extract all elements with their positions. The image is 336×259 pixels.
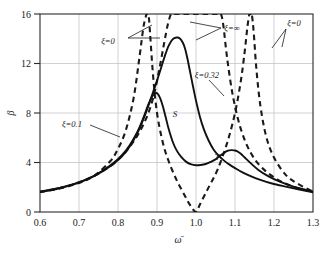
xtick-label-0.6: 0.6	[34, 217, 47, 228]
xtick-label-0.8: 0.8	[112, 217, 125, 228]
ytick-label-8: 8	[26, 108, 31, 119]
xi-point1-label: ξ=0.1	[62, 119, 82, 129]
chart-figure: ξ=0 ξ=∞ ξ=0 ξ=0.32 ξ=0.1 S T 16 12 8 4 0…	[0, 0, 336, 259]
xtick-label-1.3: 1.3	[307, 217, 320, 228]
xi-zero-right-label: ξ=0	[287, 18, 301, 28]
xtick-label-1.0: 1.0	[190, 217, 203, 228]
y-axis-title: β	[5, 110, 16, 116]
ytick-label-12: 12	[21, 58, 31, 69]
ytick-label-0: 0	[26, 207, 31, 218]
point-S-label: S	[173, 109, 178, 119]
ytick-label-16: 16	[21, 9, 31, 20]
xtick-label-0.7: 0.7	[73, 217, 86, 228]
chart-svg: ξ=0 ξ=∞ ξ=0 ξ=0.32 ξ=0.1 S T 16 12 8 4 0…	[0, 0, 336, 259]
xtick-label-0.9: 0.9	[151, 217, 164, 228]
xi-point32-label: ξ=0.32	[195, 70, 220, 80]
xtick-label-1.2: 1.2	[268, 217, 281, 228]
xi-zero-left-label: ξ=0	[101, 36, 115, 46]
xtick-label-1.1: 1.1	[229, 217, 242, 228]
xi-infinity-label: ξ=∞	[224, 23, 239, 33]
ytick-label-4: 4	[26, 157, 31, 168]
